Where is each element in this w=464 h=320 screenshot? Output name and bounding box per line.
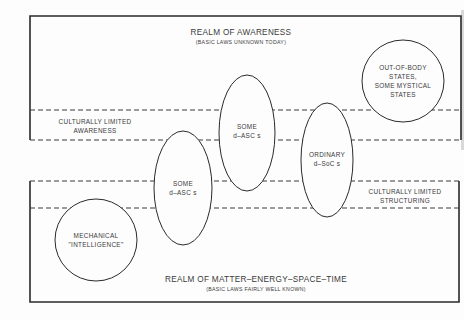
some-dascs-lower-label-2: d–ASC s: [169, 189, 196, 196]
mechanical-label-1: MECHANICAL: [74, 232, 119, 239]
realm-awareness-title: REALM OF AWARENESS: [191, 28, 292, 37]
node-some-dascs-lower: SOME d–ASC s: [154, 131, 212, 245]
node-ordinary-dsocs: ORDINARY d–SoC s: [301, 103, 353, 217]
mechanical-label-2: "INTELLIGENCE": [69, 241, 124, 248]
out-of-body-label-3: SOME MYSTICAL: [375, 82, 432, 89]
realms-diagram: OUT-OF-BODY STATES, SOME MYSTICAL STATES…: [0, 0, 464, 320]
realm-matter-subtitle: (BASIC LAWS FAIRLY WELL KNOWN): [206, 286, 306, 292]
ordinary-dsocs-label-1: ORDINARY: [309, 151, 345, 158]
node-some-dascs-upper: SOME d–ASC s: [219, 75, 275, 191]
mechanical-intelligence-circle: [55, 199, 137, 281]
node-out-of-body: OUT-OF-BODY STATES, SOME MYSTICAL STATES: [362, 40, 444, 122]
realm-matter-title: REALM OF MATTER–ENERGY–SPACE–TIME: [165, 275, 347, 284]
node-mechanical-intelligence: MECHANICAL "INTELLIGENCE": [55, 199, 137, 281]
awareness-band-label-2: AWARENESS: [73, 127, 116, 134]
ordinary-dsocs-label-2: d–SoC s: [314, 160, 341, 167]
awareness-band-label-1: CULTURALLY LIMITED: [59, 118, 132, 125]
out-of-body-label-4: STATES: [390, 91, 416, 98]
some-dascs-lower-label-1: SOME: [173, 180, 193, 187]
realm-awareness-subtitle: (BASIC LAWS UNKNOWN TODAY): [196, 39, 286, 45]
out-of-body-circle: [362, 40, 444, 122]
some-dascs-upper-label-1: SOME: [237, 123, 257, 130]
out-of-body-label-1: OUT-OF-BODY: [379, 64, 427, 71]
structuring-band-label-1: CULTURALLY LIMITED: [369, 188, 442, 195]
out-of-body-label-2: STATES,: [389, 73, 417, 80]
structuring-band-label-2: STRUCTURING: [380, 197, 430, 204]
some-dascs-lower-ellipse: [154, 131, 212, 245]
some-dascs-upper-label-2: d–ASC s: [233, 132, 260, 139]
